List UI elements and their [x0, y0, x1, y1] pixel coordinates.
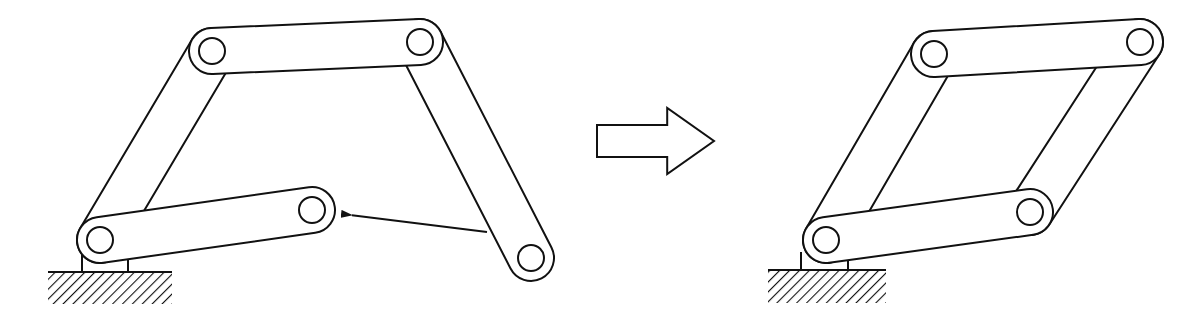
coupler	[189, 19, 443, 74]
pivot-pin-icon	[1017, 199, 1043, 225]
pivot-pin-icon	[299, 197, 325, 223]
transition-arrow	[597, 108, 714, 174]
pivot-pin-icon	[1127, 29, 1153, 55]
hatched-ground	[768, 270, 886, 303]
hatched-ground	[48, 272, 172, 304]
parallelogram-assembly	[768, 19, 1163, 303]
block-arrow-right-icon	[597, 108, 714, 174]
pivot-pin-icon	[87, 227, 113, 253]
pivot-pin-icon	[199, 38, 225, 64]
diagram-canvas	[0, 0, 1200, 330]
assembly-direction-arrow-icon	[352, 215, 487, 232]
open-chain-assembly	[48, 19, 554, 304]
pivot-pin-icon	[813, 227, 839, 253]
linkage-diagram: open chain (before) closed parallelogram…	[0, 0, 1200, 330]
pivot-pin-icon	[518, 245, 544, 271]
pivot-pin-icon	[407, 29, 433, 55]
pivot-pin-icon	[921, 41, 947, 67]
